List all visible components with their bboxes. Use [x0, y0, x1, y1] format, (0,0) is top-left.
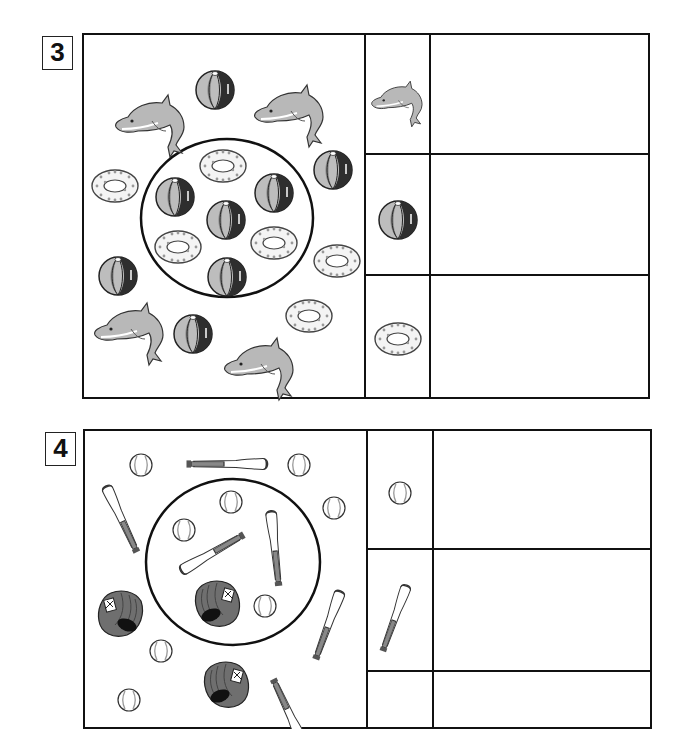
swim-ring-icon: [285, 298, 333, 334]
baseball-icon: [149, 639, 173, 663]
problem-4-row-divider-1: [366, 548, 652, 550]
baseball-icon: [322, 496, 346, 520]
baseball-bat-icon: [172, 530, 244, 582]
beach-ball-icon: [155, 177, 195, 217]
problem-4-divider-icon: [432, 429, 434, 729]
problem-4-row-divider-2: [366, 670, 652, 672]
beach-ball-icon: [313, 150, 353, 190]
answer-cell-swim-ring[interactable]: [432, 277, 647, 396]
baseball-icon: [253, 594, 277, 618]
beach-ball-icon: [173, 314, 213, 354]
problem-3-row-divider-2: [364, 274, 650, 276]
answer-cell-glove[interactable]: [435, 673, 649, 713]
baseball-icon: [287, 453, 311, 477]
beach-ball-icon: [206, 200, 246, 240]
swim-ring-icon: [374, 321, 422, 357]
swim-ring-icon: [154, 229, 202, 265]
answer-cell-dolphin[interactable]: [432, 36, 647, 152]
glove-icon: [97, 589, 147, 639]
baseball-bat-icon: [98, 480, 142, 550]
beach-ball-icon: [207, 257, 247, 297]
baseball-bat-icon: [380, 577, 414, 649]
problem-3-divider-icon: [429, 33, 431, 399]
answer-cell-beach-ball[interactable]: [432, 156, 647, 273]
beach-ball-icon: [98, 256, 138, 296]
baseball-icon: [388, 481, 412, 505]
dolphin-icon: [221, 333, 297, 405]
swim-ring-icon: [199, 148, 247, 184]
baseball-bat-icon: [270, 683, 300, 723]
problem-4-divider-picture: [366, 429, 368, 729]
problem-3-row-divider-1: [364, 153, 650, 155]
baseball-bat-icon: [190, 457, 266, 471]
glove-icon: [200, 660, 250, 710]
beach-ball-icon: [254, 173, 294, 213]
problem-number-4: 4: [45, 432, 76, 466]
dolphin-icon: [369, 78, 425, 130]
baseball-bat-icon: [261, 505, 287, 581]
problem-3-divider-picture: [364, 33, 366, 399]
baseball-bat-icon: [313, 585, 353, 657]
beach-ball-icon: [195, 70, 235, 110]
problem-number-3: 3: [42, 36, 73, 70]
baseball-icon: [117, 688, 141, 712]
glove-icon: [191, 579, 241, 629]
answer-cell-baseball[interactable]: [435, 432, 649, 547]
swim-ring-icon: [313, 243, 361, 279]
dolphin-icon: [91, 298, 167, 370]
swim-ring-icon: [91, 168, 139, 204]
baseball-icon: [129, 453, 153, 477]
answer-cell-bat[interactable]: [435, 551, 649, 669]
beach-ball-icon: [378, 200, 418, 240]
swim-ring-icon: [250, 225, 298, 261]
dolphin-icon: [251, 80, 327, 152]
dolphin-icon: [112, 90, 188, 162]
baseball-icon: [219, 490, 243, 514]
